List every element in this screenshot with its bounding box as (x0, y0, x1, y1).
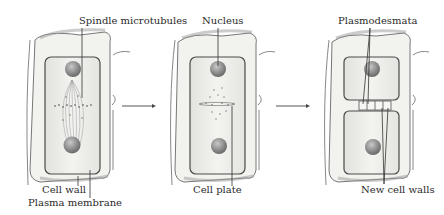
nucleus-1b (64, 137, 81, 154)
diagram-artwork (0, 0, 444, 215)
label-spindle-microtubules: Spindle microtubules (79, 15, 187, 27)
label-cell-plate: Cell plate (193, 184, 242, 196)
label-new-cell-walls: New cell walls (361, 184, 435, 196)
label-nucleus: Nucleus (202, 15, 243, 27)
arrow-2 (276, 104, 310, 108)
nucleus-2b (211, 138, 227, 154)
arrow-1 (122, 104, 156, 108)
nucleus-3b (365, 139, 381, 155)
label-cell-wall: Cell wall (42, 184, 86, 196)
label-plasma-membrane: Plasma membrane (28, 197, 122, 209)
cell-2 (171, 31, 275, 185)
plasmodesmata-channels (359, 101, 391, 110)
nucleus-1a (65, 61, 81, 77)
cell-3 (325, 31, 429, 185)
label-plasmodesmata: Plasmodesmata (338, 15, 417, 27)
cell-1 (27, 30, 130, 185)
cytokinesis-diagram: Spindle microtubules Cell wall Plasma me… (0, 0, 444, 215)
